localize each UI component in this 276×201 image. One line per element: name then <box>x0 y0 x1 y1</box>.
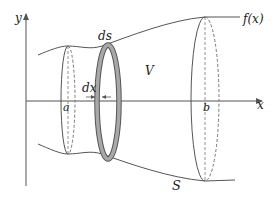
lower-curve <box>38 144 235 181</box>
y-axis-label: y <box>14 11 22 25</box>
volume-label: V <box>145 64 155 78</box>
surface-label: S <box>172 178 181 193</box>
right-section-front <box>191 17 205 181</box>
surface-of-revolution-diagram: y x f(x) ds dx V S a b <box>0 0 276 201</box>
right-section-back <box>205 17 219 181</box>
ds-label: ds <box>98 29 112 43</box>
left-section-front <box>61 46 68 154</box>
left-section-back <box>68 46 75 154</box>
a-label: a <box>63 101 70 114</box>
b-label: b <box>203 101 210 114</box>
dx-label: dx <box>82 81 97 95</box>
x-axis-label: x <box>257 98 264 112</box>
ring-element <box>97 45 119 159</box>
function-label: f(x) <box>242 12 264 26</box>
